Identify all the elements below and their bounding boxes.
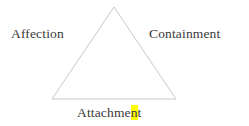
label-affection: Affection <box>11 27 64 41</box>
triangle-outline <box>52 7 176 99</box>
diagram-canvas: Affection Containment Attachment <box>0 0 249 126</box>
label-containment: Containment <box>149 27 220 41</box>
label-attachment: Attachment <box>77 106 142 120</box>
label-attachment-text-after: t <box>138 105 142 120</box>
label-attachment-text-before: Attachme <box>77 105 131 120</box>
label-attachment-highlighted-char: n <box>131 105 138 120</box>
